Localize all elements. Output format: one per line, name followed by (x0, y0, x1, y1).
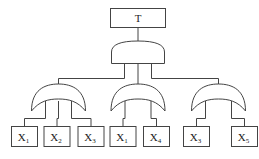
top-event: T (111, 9, 166, 28)
basic-event: X2 (44, 127, 70, 147)
or-gate (111, 84, 165, 111)
event-connector (123, 101, 125, 127)
basic-event: X3 (184, 127, 210, 147)
event-connector (57, 101, 59, 127)
basic-event: X1 (110, 127, 136, 147)
top-event-label: T (135, 12, 142, 24)
basic-event: X5 (232, 127, 258, 147)
or-gate (192, 84, 246, 111)
fault-tree-diagram: T X1X2X3X1X4X3X5 (0, 0, 259, 159)
event-connector (151, 101, 157, 127)
basic-event: X1 (12, 127, 38, 147)
basic-event: X3 (78, 127, 104, 147)
or-gates (32, 84, 246, 111)
and-gate (112, 41, 165, 64)
basic-events: X1X2X3X1X4X3X5 (12, 101, 258, 147)
basic-event: X4 (144, 127, 170, 147)
